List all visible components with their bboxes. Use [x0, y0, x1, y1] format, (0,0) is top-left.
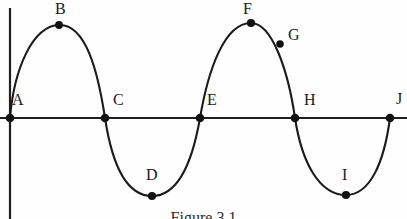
- point-marker-d: [148, 192, 156, 200]
- point-label-c: C: [113, 92, 124, 108]
- point-label-i: I: [342, 167, 348, 183]
- figure-caption: Figure 3.1: [0, 209, 407, 219]
- point-label-a: A: [12, 92, 24, 108]
- point-marker-b: [55, 21, 63, 29]
- point-marker-j: [386, 114, 395, 123]
- point-label-h: H: [304, 92, 316, 108]
- sine-curve: [10, 23, 390, 196]
- point-label-e: E: [207, 92, 217, 108]
- point-marker-f: [247, 19, 255, 27]
- point-label-b: B: [55, 1, 66, 17]
- point-label-j: J: [396, 91, 402, 107]
- point-marker-h: [291, 114, 300, 123]
- point-marker-c: [101, 114, 110, 123]
- point-marker-i: [342, 191, 350, 199]
- sine-wave-diagram: [0, 0, 407, 219]
- point-label-g: G: [288, 27, 300, 43]
- curve-point-markers: [6, 19, 395, 200]
- figure-container: A B C D E F G H I J Figure 3.1: [0, 0, 407, 219]
- point-label-f: F: [243, 1, 252, 17]
- point-marker-e: [196, 114, 205, 123]
- point-marker-g: [276, 40, 284, 48]
- point-label-d: D: [146, 167, 158, 183]
- point-marker-a: [6, 114, 15, 123]
